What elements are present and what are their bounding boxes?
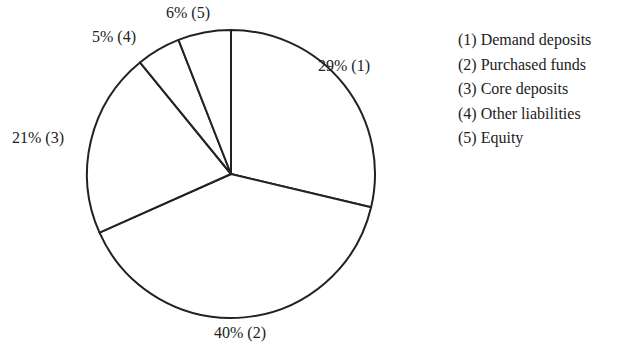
slice-label-1: 29% (1) <box>318 58 370 74</box>
legend: (1) Demand deposits (2) Purchased funds … <box>458 28 591 151</box>
slice-label-2: 40% (2) <box>214 325 266 341</box>
legend-item-equity: (5) Equity <box>458 126 591 151</box>
slice-label-5: 6% (5) <box>166 5 210 21</box>
legend-item-demand-deposits: (1) Demand deposits <box>458 28 591 53</box>
slice-label-3: 21% (3) <box>12 130 64 146</box>
legend-item-other-liabilities: (4) Other liabilities <box>458 102 591 127</box>
legend-item-core-deposits: (3) Core deposits <box>458 77 591 102</box>
legend-item-purchased-funds: (2) Purchased funds <box>458 53 591 78</box>
slice-label-4: 5% (4) <box>92 29 136 45</box>
